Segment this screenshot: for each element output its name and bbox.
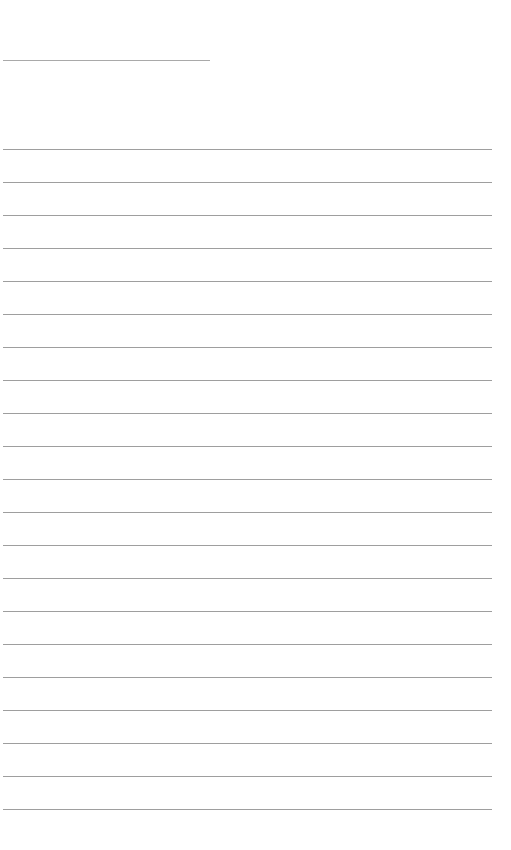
ruled-line: [3, 545, 492, 546]
ruled-line: [3, 677, 492, 678]
ruled-line: [3, 314, 492, 315]
ruled-line: [3, 644, 492, 645]
ruled-line: [3, 446, 492, 447]
ruled-line: [3, 512, 492, 513]
ruled-line: [3, 479, 492, 480]
ruled-line: [3, 578, 492, 579]
ruled-line: [3, 248, 492, 249]
ruled-line: [3, 809, 492, 810]
ruled-line: [3, 611, 492, 612]
ruled-line: [3, 776, 492, 777]
ruled-line: [3, 215, 492, 216]
ruled-line: [3, 281, 492, 282]
ruled-line: [3, 743, 492, 744]
ruled-line: [3, 182, 492, 183]
ruled-line: [3, 380, 492, 381]
ruled-line: [3, 347, 492, 348]
title-write-line: [3, 60, 210, 61]
ruled-line: [3, 149, 492, 150]
ruled-line: [3, 710, 492, 711]
ruled-line: [3, 413, 492, 414]
